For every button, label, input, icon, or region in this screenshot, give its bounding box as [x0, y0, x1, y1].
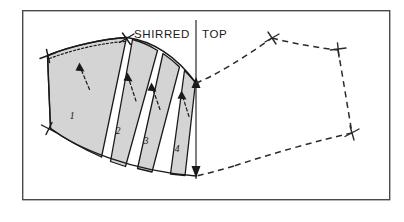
- segment-label-4: 4: [175, 144, 180, 154]
- segment-label-2: 2: [116, 126, 121, 136]
- heading-right-word: TOP: [202, 28, 227, 40]
- segment-label-3: 3: [143, 136, 149, 146]
- heading-left-word: SHIRRED: [134, 28, 190, 40]
- segment-label-1: 1: [70, 111, 75, 121]
- sewing-pattern-diagram: 1 2 3 4 SHIRRED TOP: [0, 0, 404, 222]
- diagram-canvas: 1 2 3 4 SHIRRED TOP: [0, 0, 404, 222]
